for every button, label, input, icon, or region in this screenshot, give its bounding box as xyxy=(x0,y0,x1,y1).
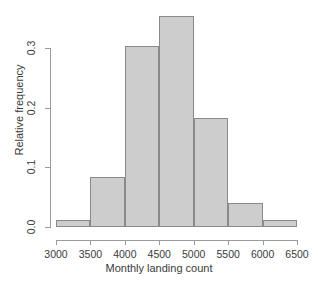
x-tick-mark xyxy=(194,240,195,245)
x-tick-mark xyxy=(56,240,57,245)
histogram-figure: 0.00.10.20.3 Relative frequency 30003500… xyxy=(0,0,318,285)
x-tick-mark xyxy=(297,240,298,245)
histogram-bar xyxy=(90,177,124,227)
y-axis-title: Relative frequency xyxy=(13,45,25,175)
histogram-bar xyxy=(56,220,90,227)
histogram-bar xyxy=(263,220,297,227)
histogram-bar xyxy=(194,118,228,227)
histogram-bar xyxy=(159,16,193,227)
x-tick-mark xyxy=(90,240,91,245)
x-tick-mark xyxy=(125,240,126,245)
histogram-bar xyxy=(125,46,159,227)
x-tick-mark xyxy=(159,240,160,245)
histogram-bar xyxy=(228,203,262,227)
x-tick-label: 6500 xyxy=(275,248,318,260)
x-tick-mark xyxy=(263,240,264,245)
plot-area xyxy=(56,10,297,227)
x-axis-line xyxy=(56,240,297,241)
x-tick-mark xyxy=(228,240,229,245)
y-tick-label: 0.0 xyxy=(16,221,46,233)
y-axis-line xyxy=(50,48,51,228)
x-axis-title: Monthly landing count xyxy=(0,262,318,274)
